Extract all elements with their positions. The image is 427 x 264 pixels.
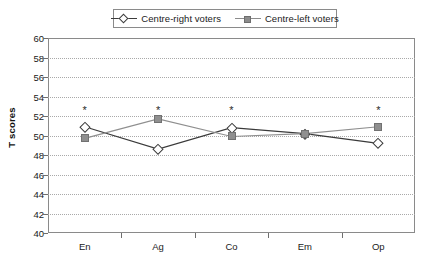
- y-tick-label: 42: [14, 208, 44, 219]
- y-tick-label: 54: [14, 91, 44, 102]
- significance-asterisk-ag: *: [156, 105, 160, 116]
- y-tick-label: 60: [14, 33, 44, 44]
- significance-markers: ****: [48, 38, 415, 233]
- legend-label-centre-left: Centre-left voters: [265, 13, 339, 24]
- y-tick-label: 48: [14, 150, 44, 161]
- y-tick-label: 46: [14, 169, 44, 180]
- x-tick-label-em: Em: [275, 241, 335, 252]
- significance-asterisk-en: *: [83, 105, 87, 116]
- y-tick-label: 40: [14, 228, 44, 239]
- x-tick-mark: [121, 233, 122, 238]
- y-tick-label: 56: [14, 72, 44, 83]
- significance-asterisk-op: *: [376, 105, 380, 116]
- x-tick-label-ag: Ag: [128, 241, 188, 252]
- y-axis-title: T scores: [6, 98, 17, 158]
- legend-item-centre-left: Centre-left voters: [235, 13, 339, 24]
- x-tick-label-co: Co: [202, 241, 262, 252]
- filled-square-line-icon: [235, 14, 261, 24]
- y-tick-mark: [43, 233, 48, 234]
- x-tick-mark: [268, 233, 269, 238]
- legend-item-centre-right: Centre-right voters: [111, 13, 221, 24]
- x-tick-mark: [195, 233, 196, 238]
- y-tick-label: 52: [14, 111, 44, 122]
- chart-legend: Centre-right voters Centre-left voters: [113, 9, 337, 28]
- legend-label-centre-right: Centre-right voters: [141, 13, 221, 24]
- open-diamond-line-icon: [111, 14, 137, 24]
- y-tick-label: 58: [14, 52, 44, 63]
- x-tick-label-op: Op: [348, 241, 408, 252]
- x-tick-mark: [342, 233, 343, 238]
- y-tick-label: 44: [14, 189, 44, 200]
- chart-container: Centre-right voters Centre-left voters T…: [0, 0, 427, 264]
- significance-asterisk-co: *: [229, 105, 233, 116]
- x-tick-label-en: En: [55, 241, 115, 252]
- y-tick-label: 50: [14, 130, 44, 141]
